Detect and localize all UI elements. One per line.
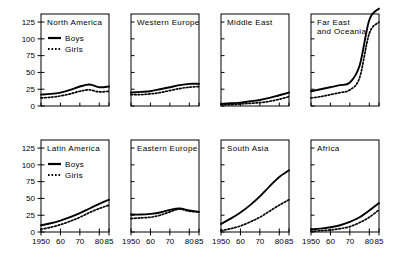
series-boys-line bbox=[311, 203, 379, 229]
y-tick-label: 50 bbox=[26, 68, 35, 77]
legend-girls-label: Girls bbox=[65, 171, 83, 180]
chart-figure: 0255075100125North AmericaBoysGirlsWeste… bbox=[0, 0, 414, 259]
series-girls-line bbox=[221, 200, 289, 231]
y-tick-label: 125 bbox=[22, 18, 36, 27]
panel-far-east-and-oceania: Far Eastand Oceania bbox=[311, 9, 379, 106]
y-tick-label: 0 bbox=[31, 228, 36, 237]
panel-title: Latin America bbox=[47, 144, 100, 153]
small-multiples-line-chart: 0255075100125North AmericaBoysGirlsWeste… bbox=[0, 0, 414, 259]
y-tick-label: 50 bbox=[26, 194, 35, 203]
x-tick-label: 60 bbox=[326, 237, 335, 246]
panel-latin-america: 0255075100125195060708085Latin AmericaBo… bbox=[22, 140, 114, 246]
x-tick-label: 1950 bbox=[302, 237, 320, 246]
y-tick-label: 0 bbox=[31, 102, 36, 111]
x-tick-label: 85 bbox=[195, 237, 204, 246]
panel-south-asia: 195060708085South Asia bbox=[212, 140, 294, 246]
panel-title: North America bbox=[47, 18, 102, 27]
x-tick-label: 60 bbox=[146, 237, 155, 246]
series-boys-line bbox=[41, 200, 109, 226]
x-tick-label: 60 bbox=[236, 237, 245, 246]
panel-africa: 195060708085Africa bbox=[302, 140, 384, 246]
x-tick-label: 80 bbox=[275, 237, 284, 246]
panel-eastern-europe: 195060708085Eastern Europe bbox=[122, 140, 204, 246]
panel-title: and Oceania bbox=[317, 27, 366, 36]
y-tick-label: 125 bbox=[22, 144, 36, 153]
x-tick-label: 1950 bbox=[32, 237, 50, 246]
x-tick-label: 80 bbox=[185, 237, 194, 246]
panel-title: Eastern Europe bbox=[137, 144, 198, 153]
x-tick-label: 85 bbox=[375, 237, 384, 246]
y-tick-label: 100 bbox=[22, 161, 36, 170]
series-boys-line bbox=[221, 93, 289, 104]
panel-title: Middle East bbox=[227, 18, 273, 27]
x-tick-label: 70 bbox=[75, 237, 84, 246]
x-tick-label: 70 bbox=[165, 237, 174, 246]
x-tick-label: 70 bbox=[345, 237, 354, 246]
panel-western-europe: Western Europe bbox=[131, 14, 200, 106]
panel-middle-east: Middle East bbox=[221, 14, 289, 106]
y-tick-label: 75 bbox=[26, 51, 35, 60]
legend-boys-label: Boys bbox=[65, 34, 84, 43]
x-tick-label: 80 bbox=[365, 237, 374, 246]
legend-boys-label: Boys bbox=[65, 160, 84, 169]
panel-north-america: 0255075100125North AmericaBoysGirls bbox=[22, 14, 109, 111]
panel-frame bbox=[41, 140, 109, 232]
panel-title: Africa bbox=[317, 144, 340, 153]
panel-frame bbox=[221, 14, 289, 106]
panel-title: South Asia bbox=[227, 144, 269, 153]
y-tick-label: 25 bbox=[26, 85, 35, 94]
y-tick-label: 75 bbox=[26, 177, 35, 186]
y-tick-label: 100 bbox=[22, 35, 36, 44]
series-boys-line bbox=[221, 170, 289, 224]
panel-title: Western Europe bbox=[137, 18, 200, 27]
y-tick-label: 25 bbox=[26, 211, 35, 220]
x-tick-label: 80 bbox=[95, 237, 104, 246]
x-tick-label: 70 bbox=[255, 237, 264, 246]
x-tick-label: 85 bbox=[285, 237, 294, 246]
series-girls-line bbox=[41, 205, 109, 229]
x-tick-label: 1950 bbox=[122, 237, 140, 246]
x-tick-label: 1950 bbox=[212, 237, 230, 246]
panel-title: Far East bbox=[317, 18, 350, 27]
legend-girls-label: Girls bbox=[65, 45, 83, 54]
x-tick-label: 85 bbox=[105, 237, 114, 246]
x-tick-label: 60 bbox=[56, 237, 65, 246]
